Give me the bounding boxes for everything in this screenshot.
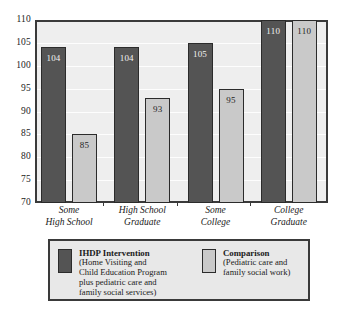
bar: 110	[292, 20, 317, 203]
y-tick-label: 80	[0, 152, 31, 162]
x-axis-label-line: College	[252, 205, 325, 217]
x-axis-group-label: CollegeGraduate	[252, 205, 325, 228]
bar-value-label: 110	[266, 27, 280, 202]
bar: 110	[261, 20, 286, 203]
bar: 85	[72, 134, 97, 203]
bar-value-label: 85	[80, 141, 89, 202]
x-axis-group-label: SomeCollege	[179, 205, 252, 228]
legend-description: (Pediatric care andfamily social work)	[223, 258, 290, 278]
bar-value-label: 93	[153, 105, 162, 202]
legend-text: Comparison(Pediatric care andfamily soci…	[223, 248, 290, 278]
bar: 104	[114, 47, 139, 203]
bar: 105	[188, 43, 213, 203]
y-tick-label: 110	[0, 15, 31, 25]
x-axis-label-line: High School	[32, 217, 105, 229]
legend-swatch	[202, 249, 216, 273]
legend-swatch	[58, 249, 72, 273]
legend-description-line: family social services)	[79, 288, 167, 298]
legend-entry: Comparison(Pediatric care andfamily soci…	[202, 248, 306, 278]
bar-value-label: 110	[297, 27, 311, 202]
x-axis-label-line: Graduate	[106, 217, 179, 229]
x-axis-label-line: High School	[106, 205, 179, 217]
y-tick-label: 75	[0, 175, 31, 185]
bar-value-label: 105	[193, 50, 207, 202]
legend-entry: IHDP Intervention(Home Visiting andChild…	[58, 248, 208, 298]
bar-value-label: 104	[46, 54, 60, 202]
bar-value-label: 104	[120, 54, 134, 202]
y-tick-label: 90	[0, 107, 31, 117]
x-axis-group-label: SomeHigh School	[32, 205, 105, 228]
bar-chart-figure: 110105100959085807570 104851049310595110…	[0, 0, 346, 321]
legend-description: (Home Visiting andChild Education Progra…	[79, 258, 167, 297]
bar-value-label: 95	[226, 96, 235, 202]
x-axis-label-line: Some	[179, 205, 252, 217]
legend-description-line: family social work)	[223, 268, 290, 278]
y-tick-label: 95	[0, 84, 31, 94]
x-axis-label-line: College	[179, 217, 252, 229]
y-axis: 110105100959085807570	[0, 20, 31, 203]
x-axis-group-label: High SchoolGraduate	[106, 205, 179, 228]
bar: 93	[145, 98, 170, 203]
x-axis-label-line: Some	[32, 205, 105, 217]
y-tick-label: 105	[0, 38, 31, 48]
bar: 104	[41, 47, 66, 203]
x-axis-label-line: Graduate	[252, 217, 325, 229]
bar: 95	[219, 89, 244, 203]
legend-text: IHDP Intervention(Home Visiting andChild…	[79, 248, 167, 298]
x-axis: SomeHigh SchoolHigh SchoolGraduateSomeCo…	[35, 205, 328, 231]
y-tick-label: 70	[0, 198, 31, 208]
legend: IHDP Intervention(Home Visiting andChild…	[48, 239, 310, 301]
y-tick-label: 100	[0, 61, 31, 71]
bars-layer: 104851049310595110110	[35, 20, 328, 203]
y-tick-label: 85	[0, 129, 31, 139]
